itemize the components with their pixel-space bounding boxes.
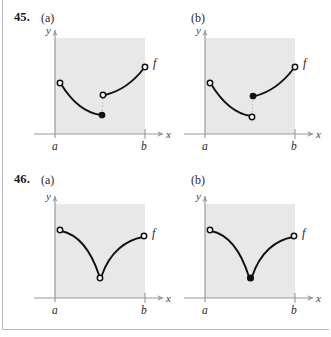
filled-dot-right-limit	[250, 93, 256, 99]
filled-dot-at-cusp	[248, 275, 254, 281]
part-label-45a: (a)	[41, 11, 54, 26]
y-axis-label: y	[45, 26, 51, 36]
y-axis-label: y	[45, 190, 51, 202]
part-label-46a: (a)	[41, 173, 54, 188]
curve-label-f: f	[302, 226, 307, 240]
tick-label-a: a	[52, 304, 58, 316]
shaded-region	[55, 38, 145, 134]
open-circle-at-b	[292, 64, 297, 69]
part-label-45b: (b)	[191, 11, 205, 26]
problem-number-45: 45.	[14, 10, 30, 25]
y-axis-label: y	[195, 26, 201, 36]
shaded-region	[55, 204, 145, 298]
open-circle-at-a	[57, 227, 62, 232]
tick-label-b: b	[141, 140, 147, 152]
figure-left-rule	[2, 0, 3, 330]
part-label-46b: (b)	[191, 173, 205, 188]
tick-label-b: b	[291, 140, 297, 152]
figure-bottom-rule	[2, 329, 329, 330]
open-circle-right-limit	[100, 92, 105, 97]
curve-label-f: f	[153, 56, 158, 70]
tick-label-b: b	[291, 304, 297, 316]
open-circle-at-b	[141, 233, 146, 238]
open-circle-left-limit	[249, 114, 254, 119]
open-circle-at-a	[207, 80, 212, 85]
tick-label-b: b	[141, 304, 147, 316]
y-axis-label: y	[195, 190, 201, 202]
open-circle-at-b	[291, 233, 296, 238]
curve-label-f: f	[152, 226, 157, 240]
filled-dot-left-limit	[99, 112, 105, 118]
open-circle-at-cusp	[97, 275, 102, 280]
tick-label-a: a	[202, 304, 208, 316]
x-axis-label: x	[165, 128, 171, 140]
graph-46a: y x a b f	[28, 190, 178, 320]
x-axis-label: x	[315, 128, 321, 140]
open-circle-at-a	[57, 80, 62, 85]
graph-45b: y x a b f	[178, 26, 328, 156]
x-axis-label: x	[315, 292, 321, 304]
textbook-figure: 45. (a) (b) y x a b f	[0, 0, 331, 337]
x-axis-label: x	[165, 292, 171, 304]
open-circle-at-a	[207, 227, 212, 232]
problem-number-46: 46.	[14, 172, 30, 187]
shaded-region	[205, 204, 295, 298]
tick-label-a: a	[202, 140, 208, 152]
curve-label-f: f	[303, 56, 308, 70]
graph-45a: y x a b f	[28, 26, 178, 156]
open-circle-at-b	[142, 64, 147, 69]
graph-46b: y x a b f	[178, 190, 328, 320]
tick-label-a: a	[52, 140, 58, 152]
